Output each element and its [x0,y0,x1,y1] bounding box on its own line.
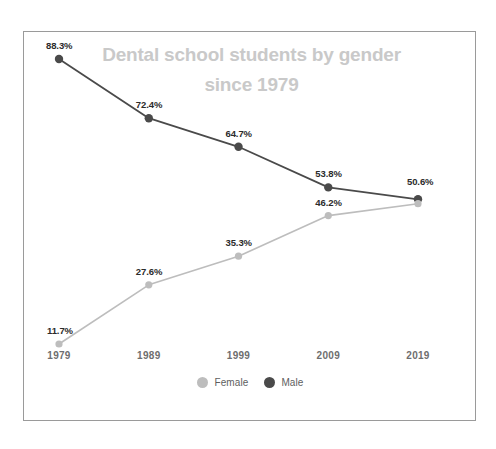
data-label-male-2019: 50.6% [407,176,433,187]
data-label-male-1979: 88.3% [46,40,72,51]
data-label-female-2009: 46.2% [315,197,341,208]
legend-dot-icon [264,377,275,388]
chart-frame: Dental school students by gender since 1… [23,31,476,421]
x-tick-2009: 2009 [298,350,358,361]
data-label-male-2009: 53.8% [315,168,341,179]
data-point-female-1979[interactable] [55,340,62,347]
series-lines [24,32,477,422]
legend-dot-icon [197,377,208,388]
data-point-male-1979[interactable] [55,55,63,63]
legend-item-female[interactable]: Female [197,377,248,388]
x-tick-1989: 1989 [119,350,179,361]
data-point-female-2009[interactable] [325,212,332,219]
line-female [59,204,418,344]
data-point-male-1999[interactable] [234,143,242,151]
chart-legend: FemaleMale [24,377,477,388]
data-label-female-1989: 27.6% [136,266,162,277]
data-point-female-1989[interactable] [145,281,152,288]
data-point-female-2019[interactable] [414,200,421,207]
data-label-male-1989: 72.4% [136,99,162,110]
data-label-male-1999: 64.7% [226,128,252,139]
data-point-male-2009[interactable] [324,183,332,191]
x-tick-2019: 2019 [388,350,448,361]
data-label-female-1999: 35.3% [226,237,252,248]
legend-label: Male [281,377,303,388]
data-point-male-1989[interactable] [145,114,153,122]
legend-label: Female [214,377,248,388]
legend-item-male[interactable]: Male [264,377,303,388]
plot-area: 11.7%27.6%35.3%46.2%88.3%72.4%64.7%53.8%… [24,32,475,420]
data-point-female-1999[interactable] [235,253,242,260]
markers-female [55,200,421,348]
data-label-female-1979: 11.7% [47,325,73,336]
x-tick-1979: 1979 [29,350,89,361]
x-tick-1999: 1999 [209,350,269,361]
